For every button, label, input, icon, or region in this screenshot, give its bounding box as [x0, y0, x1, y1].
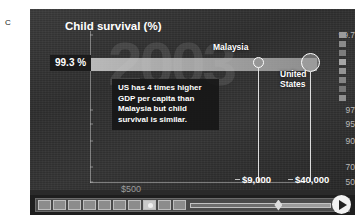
color-legend-strip[interactable] — [339, 32, 346, 104]
timeline-segment[interactable] — [173, 200, 186, 210]
data-label-malaysia: Malaysia — [213, 42, 248, 52]
annotation-line: Malaysia but child — [118, 104, 214, 115]
y-tick-mark — [90, 182, 93, 183]
x-value-label-malaysia: $9,000 — [242, 174, 271, 185]
y-tick-mark — [90, 124, 93, 125]
y-tick-mark — [90, 141, 93, 142]
y-tick-label: 90 — [297, 136, 355, 146]
chart-title: Child survival (%) — [65, 20, 162, 32]
timeline-segment[interactable] — [38, 200, 51, 210]
slider-handle[interactable] — [274, 200, 282, 211]
timeline-segment-current[interactable] — [143, 200, 156, 210]
x-axis-line — [90, 182, 305, 183]
timeline-segment[interactable] — [53, 200, 66, 210]
chart-app-frame: 2003 Child survival (%) 99.7 97 95 90 70… — [30, 9, 355, 215]
progress-fill — [191, 204, 277, 207]
y-tick-mark — [90, 35, 93, 36]
legend-cell[interactable] — [339, 77, 346, 83]
annotation-callout: US has 4 times higher GDP per capita tha… — [112, 79, 219, 130]
highlight-y-value: 99.3 % — [50, 55, 91, 71]
timeline-segment[interactable] — [128, 200, 141, 210]
legend-cell[interactable] — [339, 32, 346, 38]
data-point-malaysia[interactable] — [253, 57, 264, 68]
y-axis-line — [90, 31, 91, 183]
legend-cell[interactable] — [339, 50, 346, 56]
annotation-line: survival is similar. — [118, 115, 214, 126]
panel-label: C — [5, 18, 11, 27]
legend-cell[interactable] — [339, 86, 346, 92]
legend-cell[interactable] — [339, 59, 346, 65]
timeline-segment[interactable] — [113, 200, 126, 210]
timeline-segment[interactable] — [98, 200, 111, 210]
y-tick-label: 99.7 — [297, 30, 355, 40]
x-value-label-united-states: $40,000 — [295, 174, 329, 185]
x-tick-mark — [288, 179, 293, 180]
y-tick-mark — [90, 167, 93, 168]
drop-line-malaysia — [258, 68, 259, 182]
legend-cell[interactable] — [339, 41, 346, 47]
y-tick-label: 95 — [297, 119, 355, 129]
play-button[interactable] — [332, 195, 351, 214]
annotation-line: GDP per capita than — [118, 94, 214, 105]
play-icon — [339, 200, 347, 210]
y-tick-mark — [90, 110, 93, 111]
progress-slider[interactable] — [190, 203, 331, 208]
y-tick-label: 70 — [297, 162, 355, 172]
data-label-united-states: United States — [280, 69, 314, 89]
annotation-line: US has 4 times higher — [118, 83, 214, 94]
player-bar — [30, 195, 355, 215]
x-tick-mark — [235, 179, 240, 180]
legend-cell[interactable] — [339, 95, 346, 101]
timeline-segment[interactable] — [68, 200, 81, 210]
legend-cell[interactable] — [339, 68, 346, 74]
timeline-control[interactable] — [35, 198, 350, 212]
timeline-segment[interactable] — [158, 200, 171, 210]
y-tick-label: 97 — [297, 105, 355, 115]
x-min-label: $500 — [121, 184, 141, 194]
plot-area[interactable]: 2003 Child survival (%) 99.7 97 95 90 70… — [30, 9, 355, 190]
timeline-segment[interactable] — [83, 200, 96, 210]
screenshot-root: C 2003 Child survival (%) 99.7 97 95 90 … — [0, 0, 361, 224]
